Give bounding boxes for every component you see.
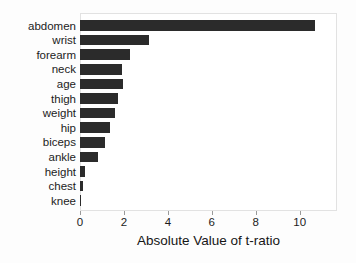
tick-label: 0	[77, 216, 83, 228]
category-label: forearm	[0, 48, 76, 63]
tick-label: 2	[121, 216, 127, 228]
tick-mark	[80, 211, 81, 215]
category-label: thigh	[0, 92, 76, 107]
bar	[80, 49, 130, 60]
bar-row	[80, 165, 337, 180]
x-axis-title: Absolute Value of t-ratio	[80, 233, 337, 248]
y-axis-category-labels: abdomenwristforearmneckagethighweighthip…	[0, 13, 76, 211]
tick-label: 4	[165, 216, 171, 228]
bar	[80, 137, 105, 148]
category-label: wrist	[0, 33, 76, 48]
bar	[80, 181, 83, 192]
category-label: abdomen	[0, 19, 76, 34]
bar-row	[80, 135, 337, 150]
category-label: chest	[0, 179, 76, 194]
category-label: knee	[0, 194, 76, 209]
x-axis-tick-labels: 0246810	[80, 216, 337, 232]
chart-figure: abdomenwristforearmneckagethighweighthip…	[0, 0, 356, 263]
bar	[80, 93, 118, 104]
tick-label: 10	[293, 216, 306, 228]
tick-mark	[300, 211, 301, 215]
bar-row	[80, 48, 337, 63]
category-label: age	[0, 77, 76, 92]
bar-row	[80, 106, 337, 121]
bar-row	[80, 77, 337, 92]
category-label: height	[0, 165, 76, 180]
category-label: weight	[0, 106, 76, 121]
bar-row	[80, 179, 337, 194]
bar	[80, 79, 123, 90]
category-label: ankle	[0, 150, 76, 165]
category-label: hip	[0, 121, 76, 136]
tick-mark	[256, 211, 257, 215]
bar-series	[80, 13, 337, 211]
bar	[80, 20, 315, 31]
bar-row	[80, 194, 337, 209]
tick-mark	[168, 211, 169, 215]
bar-row	[80, 92, 337, 107]
bar-row	[80, 150, 337, 165]
tick-mark	[212, 211, 213, 215]
tick-label: 6	[209, 216, 215, 228]
bar	[80, 195, 81, 206]
bar	[80, 108, 115, 119]
bar	[80, 152, 98, 163]
tick-label: 8	[253, 216, 259, 228]
category-label: biceps	[0, 135, 76, 150]
category-label: neck	[0, 62, 76, 77]
tick-mark	[124, 211, 125, 215]
bar-row	[80, 62, 337, 77]
bar	[80, 122, 110, 133]
bar	[80, 64, 122, 75]
bar-row	[80, 121, 337, 136]
bar	[80, 35, 149, 46]
bar-row	[80, 33, 337, 48]
bar	[80, 166, 85, 177]
bar-row	[80, 19, 337, 34]
